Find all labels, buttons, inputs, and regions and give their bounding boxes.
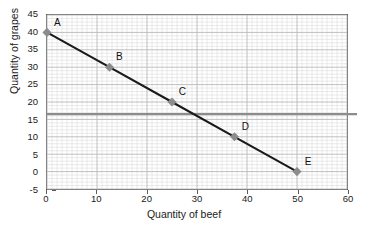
x-tick-mark	[197, 190, 198, 194]
x-tick-label: 30	[192, 194, 203, 204]
y-axis-title: Quantity of grapes	[8, 8, 20, 94]
x-tick-label: 20	[141, 194, 152, 204]
point-label-e: E	[305, 157, 312, 167]
x-tick-mark	[96, 190, 97, 194]
y-tick-label: 5	[12, 150, 38, 160]
x-tick-label: 10	[91, 194, 102, 204]
point-label-b: B	[116, 52, 123, 62]
y-axis-title-wrapper: Quantity of grapes	[4, 0, 22, 126]
y-tick-label: -5	[12, 185, 38, 195]
x-tick-mark	[247, 190, 248, 194]
x-tick-mark	[348, 190, 349, 194]
x-tick-label: 40	[242, 194, 253, 204]
x-tick-label: 50	[292, 194, 303, 204]
y-tick-label: 0	[12, 168, 38, 178]
y-tick-label: 10	[12, 132, 38, 142]
x-tick-mark	[46, 190, 47, 194]
point-label-d: D	[242, 122, 249, 132]
x-tick-label: 0	[43, 194, 48, 204]
plot-area	[46, 14, 348, 190]
y-tick-mark	[52, 190, 56, 191]
x-tick-mark	[147, 190, 148, 194]
chart-figure: -5051015202530354045 0102030405060 ABCDE…	[0, 0, 368, 231]
x-tick-mark	[298, 190, 299, 194]
point-label-c: C	[179, 87, 186, 97]
point-label-a: A	[54, 18, 61, 28]
x-tick-label: 60	[343, 194, 354, 204]
data-series-layer	[47, 15, 347, 189]
x-axis-title: Quantity of beef	[0, 208, 368, 220]
